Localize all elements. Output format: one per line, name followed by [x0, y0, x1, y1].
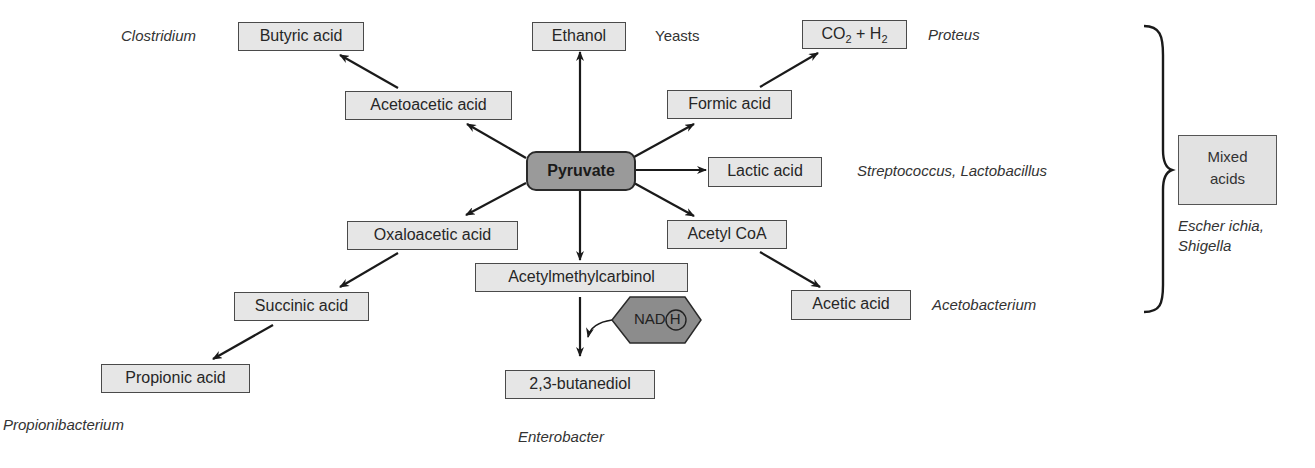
label-acetic-acid: Acetic acid	[812, 295, 889, 312]
box-co2-h2: CO2 + H2	[802, 20, 907, 49]
label-oxaloacetic-acid: Oxaloacetic acid	[374, 226, 491, 243]
label-co2-h2: CO2 + H2	[821, 25, 887, 42]
organism-escherichia-shigella: Escher ichia, Shigella	[1178, 216, 1264, 256]
box-oxaloacetic-acid: Oxaloacetic acid	[347, 221, 518, 250]
organism-proteus: Proteus	[928, 26, 980, 43]
mixed-acids-line1: Mixed	[1179, 146, 1276, 168]
box-acetylmethylcarbinol: Acetylmethylcarbinol	[475, 263, 688, 292]
pyruvate-node: Pyruvate	[526, 151, 636, 191]
arrow-to-acetic	[760, 252, 820, 287]
label-propionic-acid: Propionic acid	[125, 369, 226, 386]
box-mixed-acids: Mixed acids	[1178, 135, 1277, 205]
label-butanediol: 2,3-butanediol	[529, 375, 630, 392]
label-lactic-acid: Lactic acid	[727, 162, 803, 179]
organism-yeasts: Yeasts	[655, 27, 699, 44]
label-succinic-acid: Succinic acid	[255, 297, 348, 314]
arrow-to-propionic	[213, 325, 273, 359]
arrow-to-co2h2	[760, 53, 818, 87]
label-acetyl-coa: Acetyl CoA	[687, 225, 766, 242]
arrow-to-acetoacetic	[467, 124, 526, 158]
organism-streptococcus-lactobacillus: Streptococcus, Lactobacillus	[857, 162, 1047, 179]
box-formic-acid: Formic acid	[667, 90, 792, 119]
box-succinic-acid: Succinic acid	[234, 292, 369, 321]
nadh-label: NADH	[634, 310, 681, 327]
organism-acetobacterium: Acetobacterium	[932, 296, 1036, 313]
organism-enterobacter: Enterobacter	[518, 428, 604, 445]
box-acetyl-coa: Acetyl CoA	[667, 220, 787, 249]
label-ethanol: Ethanol	[552, 27, 606, 44]
arrow-to-formic	[634, 124, 694, 157]
arrow-to-oxaloacetic	[466, 183, 526, 215]
label-acetoacetic-acid: Acetoacetic acid	[370, 96, 487, 113]
label-pyruvate: Pyruvate	[547, 162, 615, 179]
box-ethanol: Ethanol	[532, 22, 626, 51]
box-butyric-acid: Butyric acid	[238, 22, 364, 51]
arrows-layer	[0, 0, 1315, 468]
label-butyric-acid: Butyric acid	[260, 27, 343, 44]
arrow-nadh-to-pathway	[588, 320, 612, 337]
organism-propionibacterium: Propionibacterium	[3, 416, 124, 433]
box-propionic-acid: Propionic acid	[101, 364, 250, 393]
box-lactic-acid: Lactic acid	[708, 157, 822, 187]
arrow-to-butyric	[340, 55, 398, 88]
label-acetylmethylcarbinol: Acetylmethylcarbinol	[508, 268, 655, 285]
mixed-acids-line2: acids	[1179, 168, 1276, 190]
box-acetoacetic-acid: Acetoacetic acid	[345, 91, 512, 120]
mixed-acids-brace	[1144, 26, 1172, 312]
arrow-to-succinic	[340, 253, 398, 287]
box-acetic-acid: Acetic acid	[791, 290, 911, 320]
arrow-to-acetylcoa	[634, 183, 694, 216]
box-butanediol: 2,3-butanediol	[505, 370, 655, 399]
label-formic-acid: Formic acid	[688, 95, 771, 112]
organism-clostridium: Clostridium	[121, 27, 196, 44]
nadh-circled-h: H	[670, 310, 681, 327]
